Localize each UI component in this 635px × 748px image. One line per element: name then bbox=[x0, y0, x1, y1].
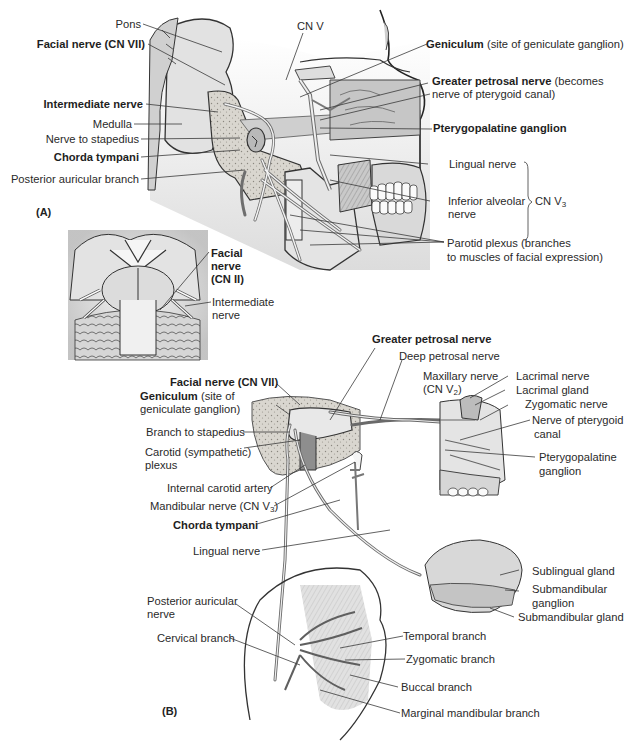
label-submandibular-ganglion-line2: ganglion bbox=[532, 597, 574, 610]
label-cn-v: CN V bbox=[297, 20, 324, 33]
label-pons: Pons bbox=[116, 18, 142, 31]
label-chorda-tympani-b: Chorda tympani bbox=[173, 519, 258, 532]
label-submandibular-gland: Submandibular gland bbox=[518, 611, 624, 624]
label-geniculum-b-line2: geniculate ganglion) bbox=[140, 403, 240, 416]
label-mandibular-nerve: Mandibular nerve (CN V3) bbox=[150, 500, 278, 516]
panel-b-marker: (B) bbox=[162, 705, 177, 717]
label-cn-v3-a: CN V3 bbox=[535, 195, 566, 211]
label-medulla: Medulla bbox=[93, 118, 132, 131]
label-lingual-nerve-b: Lingual nerve bbox=[193, 545, 260, 558]
label-carotid-plexus-line2: plexus bbox=[145, 459, 177, 472]
inset-brain-base-art bbox=[68, 230, 208, 360]
label-inset-facial-nerve-line3: (CN II) bbox=[211, 273, 244, 286]
label-lacrimal-nerve: Lacrimal nerve bbox=[516, 370, 589, 383]
label-facial-nerve-b: Facial nerve (CN VII) bbox=[170, 376, 278, 389]
label-lingual-nerve-a: Lingual nerve bbox=[449, 158, 516, 171]
label-zygomatic-nerve: Zygomatic nerve bbox=[525, 398, 608, 411]
label-maxillary-nerve-line2: (CN V2) bbox=[423, 383, 462, 399]
label-deep-petrosal-b: Deep petrosal nerve bbox=[399, 350, 500, 363]
label-cervical-branch: Cervical branch bbox=[157, 632, 235, 645]
geniculum-b-note: (site of bbox=[198, 390, 235, 402]
label-posterior-auricular-nerve-line2: nerve bbox=[147, 608, 175, 621]
label-greater-petrosal-a: Greater petrosal nerve (becomes bbox=[432, 75, 604, 88]
label-posterior-auricular-nerve: Posterior auricular bbox=[147, 595, 238, 608]
geniculum-a-note: (site of geniculate ganglion) bbox=[484, 38, 624, 50]
label-parotid-plexus-line2: to muscles of facial expression) bbox=[447, 251, 603, 264]
label-submandibular-ganglion: Submandibular bbox=[532, 583, 607, 596]
label-inferior-alveolar: Inferior alveolar bbox=[448, 195, 525, 208]
label-geniculum-b: Geniculum (site of bbox=[140, 390, 235, 403]
label-temporal-branch: Temporal branch bbox=[403, 630, 486, 643]
greater-petrosal-a-bold: Greater petrosal nerve bbox=[432, 75, 551, 87]
label-marginal-mandibular-branch: Marginal mandibular branch bbox=[401, 707, 540, 720]
label-chorda-tympani-a: Chorda tympani bbox=[54, 151, 139, 164]
cn-v3-a-sub: 3 bbox=[562, 200, 566, 209]
label-carotid-plexus: Carotid (sympathetic) bbox=[145, 446, 251, 459]
geniculum-a-bold: Geniculum bbox=[426, 38, 484, 50]
label-pterygopalatine-b: Pterygopalatine bbox=[539, 451, 617, 464]
label-maxillary-nerve: Maxillary nerve bbox=[423, 370, 498, 383]
maxillary-end: ) bbox=[458, 383, 462, 395]
mandibular-base: Mandibular nerve (CN V bbox=[150, 500, 270, 512]
label-greater-petrosal-b: Greater petrosal nerve bbox=[372, 333, 491, 346]
label-parotid-plexus: Parotid plexus (branches bbox=[447, 237, 571, 250]
label-sublingual-gland: Sublingual gland bbox=[532, 565, 615, 578]
label-inset-facial-nerve-line2: nerve bbox=[211, 260, 241, 273]
label-posterior-auricular-branch: Posterior auricular branch bbox=[11, 173, 139, 186]
label-greater-petrosal-a-line2: nerve of pterygoid canal) bbox=[432, 88, 555, 101]
mandibular-end: ) bbox=[274, 500, 278, 512]
label-nerve-pterygoid-canal-line2: canal bbox=[534, 428, 561, 441]
geniculum-b-bold: Geniculum bbox=[140, 390, 198, 402]
label-branch-to-stapedius: Branch to stapedius bbox=[146, 426, 245, 439]
label-facial-nerve-a: Facial nerve (CN VII) bbox=[37, 38, 145, 51]
label-pterygopalatine-b-line2: ganglion bbox=[539, 465, 581, 478]
panel-b-art bbox=[244, 395, 522, 740]
label-intermediate-nerve-a: Intermediate nerve bbox=[44, 98, 144, 111]
panel-a-marker: (A) bbox=[36, 206, 51, 218]
label-zygomatic-branch: Zygomatic branch bbox=[406, 653, 495, 666]
label-inset-intermediate-line2: nerve bbox=[212, 309, 240, 322]
greater-petrosal-a-note: (becomes bbox=[551, 75, 603, 87]
label-nerve-pterygoid-canal: Nerve of pterygoid bbox=[532, 414, 623, 427]
cn-v3-a-base: CN V bbox=[535, 195, 562, 207]
label-geniculum-a: Geniculum (site of geniculate ganglion) bbox=[426, 38, 624, 51]
label-lacrimal-gland: Lacrimal gland bbox=[516, 384, 589, 397]
maxillary-base: (CN V bbox=[423, 383, 453, 395]
label-buccal-branch: Buccal branch bbox=[401, 681, 472, 694]
label-inferior-alveolar-line2: nerve bbox=[448, 208, 476, 221]
label-inset-facial-nerve: Facial bbox=[211, 247, 243, 260]
label-internal-carotid: Internal carotid artery bbox=[167, 482, 273, 495]
label-pterygopalatine-ganglion-a: Pterygopalatine ganglion bbox=[433, 122, 567, 135]
label-nerve-to-stapedius: Nerve to stapedius bbox=[46, 133, 139, 146]
label-inset-intermediate: Intermediate bbox=[212, 296, 274, 309]
